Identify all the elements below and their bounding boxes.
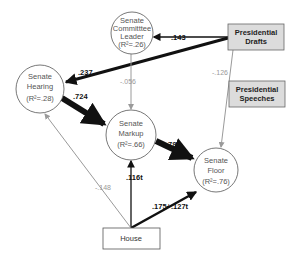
edge-label-house-to-markup: .116t — [126, 173, 143, 182]
node-label: Senate — [119, 119, 143, 128]
node-label: Presidential — [235, 28, 278, 37]
node-senate-committee-leader: Senate Committtee Leader (R²=.26) — [111, 12, 153, 54]
node-senate-floor: Senate Floor (R²=.76) — [194, 148, 238, 192]
node-label: Speeches — [239, 94, 274, 103]
edge-label-leader-to-markup: -.056 — [120, 78, 136, 85]
edge-label-house-to-hearing: -.148 — [95, 184, 111, 191]
node-senate-hearing: Senate Hearing (R²=.28) — [16, 65, 64, 113]
node-label: House — [120, 234, 142, 243]
edge-label-drafts-to-leader: .143 — [171, 33, 186, 42]
node-presidential-drafts: Presidential Drafts — [228, 24, 284, 50]
edge-label-hearing-to-markup: .724 — [73, 92, 88, 101]
node-senate-markup: Senate Markup (R²=.66) — [106, 110, 156, 160]
node-r-squared: (R²=.26) — [118, 40, 146, 49]
node-label: Floor — [207, 166, 225, 175]
node-label: Presidential — [236, 85, 279, 94]
node-label: Drafts — [245, 37, 267, 46]
edge-label-drafts-to-hearing: .237 — [78, 68, 93, 77]
node-house: House — [103, 228, 160, 249]
node-r-squared: (R²=.76) — [202, 177, 230, 186]
node-label: Hearing — [27, 82, 53, 91]
edge-label-drafts-to-floor: -.126 — [212, 69, 228, 76]
node-r-squared: (R²=.66) — [117, 140, 145, 149]
node-presidential-speeches: Presidential Speeches — [229, 81, 285, 107]
node-label: Senate — [28, 72, 52, 81]
path-diagram: .143 .237 -.126 -.056 .724 .781 .116t .1… — [0, 0, 300, 256]
edge-hearing-to-markup — [62, 98, 104, 124]
edge-label-house-to-floor: .175+.127t — [152, 202, 189, 211]
node-r-squared: (R²=.28) — [26, 94, 54, 103]
node-label: Senate — [204, 156, 228, 165]
edge-label-markup-to-floor: .781 — [166, 140, 181, 149]
node-label: Markup — [118, 129, 143, 138]
